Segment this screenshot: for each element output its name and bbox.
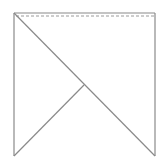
geometry-diagram [0,0,166,167]
